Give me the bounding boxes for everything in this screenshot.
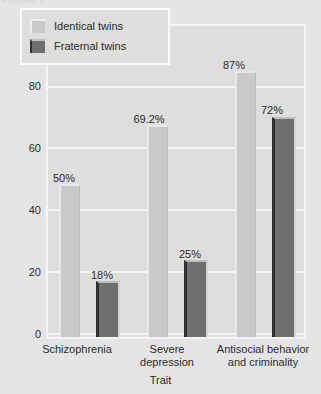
legend-swatch-icon-identical	[30, 19, 45, 33]
x-axis-label: Trait	[0, 374, 321, 386]
value-label-identical-schizophrenia: 50%	[44, 172, 84, 184]
bar-fraternal-schizophrenia	[96, 281, 120, 337]
plot-area	[46, 24, 306, 339]
value-label-fraternal-schizophrenia: 18%	[82, 269, 122, 281]
value-label-identical-antisocial: 87%	[214, 59, 254, 71]
y-tick-20: 20	[1, 266, 41, 278]
gridline-0	[48, 333, 304, 335]
y-tick-60: 60	[1, 142, 41, 154]
gridline-80	[48, 86, 304, 88]
value-label-fraternal-antisocial: 72%	[252, 104, 292, 116]
value-label-identical-severe-depression: 69.2%	[126, 113, 172, 125]
x-tick-antisocial: Antisocial behavior and criminality	[206, 343, 320, 369]
x-tick-severe-depression: Severe depression	[124, 343, 210, 369]
x-tick-schizophrenia: Schizophrenia	[32, 343, 122, 356]
clipped-caption-text: FIGURE 1	[3, 0, 44, 5]
chart-figure: FIGURE 1 100 80 60 40 20 0 Concordance R…	[0, 0, 321, 394]
legend-label-fraternal: Fraternal twins	[54, 40, 126, 52]
bar-fraternal-severe-depression	[184, 260, 208, 337]
bar-identical-severe-depression	[147, 125, 168, 337]
value-label-fraternal-severe-depression: 25%	[170, 248, 210, 260]
bar-fraternal-antisocial	[272, 117, 296, 337]
y-tick-40: 40	[1, 204, 41, 216]
gridline-40	[48, 209, 304, 211]
y-tick-0: 0	[1, 328, 41, 340]
chart-legend: Identical twins Fraternal twins	[20, 8, 170, 65]
legend-label-identical: Identical twins	[54, 20, 123, 32]
gridline-60	[48, 147, 304, 149]
bar-identical-schizophrenia	[59, 184, 80, 337]
y-tick-80: 80	[1, 80, 41, 92]
legend-swatch-icon-fraternal	[30, 39, 45, 53]
legend-item-fraternal-twins: Fraternal twins	[30, 36, 160, 56]
legend-item-identical-twins: Identical twins	[30, 16, 160, 36]
